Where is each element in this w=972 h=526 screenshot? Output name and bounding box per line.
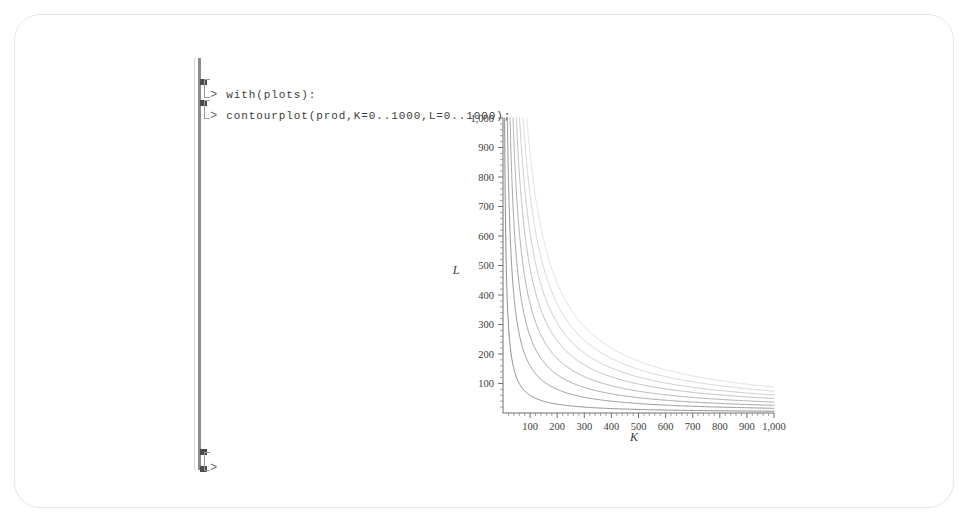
y-tick-label: 600 xyxy=(478,231,494,242)
y-tick-label: 800 xyxy=(478,172,494,183)
execution-group-bar[interactable] xyxy=(198,58,201,470)
contour-curve xyxy=(523,118,774,391)
y-axis-tick-labels: 1002003004005006007008009001,000 xyxy=(470,113,494,390)
y-tick-label: 900 xyxy=(478,142,494,153)
contour-curve xyxy=(507,118,774,408)
y-tick-label: 700 xyxy=(478,201,494,212)
y-axis-label: L xyxy=(452,263,460,277)
y-tick-label: 100 xyxy=(478,378,494,389)
contour-curve xyxy=(527,118,774,387)
prompt-bracket-icon xyxy=(204,452,210,471)
contour-curves xyxy=(505,118,774,411)
y-tick-label: 300 xyxy=(478,319,494,330)
x-axis-tick-labels: 1002003004005006007008009001,000 xyxy=(522,421,786,432)
x-tick-label: 100 xyxy=(522,421,538,432)
x-tick-label: 700 xyxy=(685,421,701,432)
x-tick-label: 300 xyxy=(576,421,592,432)
x-axis-ticks xyxy=(508,413,774,418)
x-tick-label: 1,000 xyxy=(762,421,786,432)
x-axis-label: K xyxy=(629,430,639,444)
prompt-caret-icon: > xyxy=(210,461,217,475)
prompt-bracket-icon xyxy=(204,100,210,119)
x-tick-label: 200 xyxy=(549,421,565,432)
prompt-caret-icon: > xyxy=(210,109,217,123)
y-tick-label: 200 xyxy=(478,349,494,360)
y-tick-label: 1,000 xyxy=(470,113,494,124)
contourplot-output[interactable]: 1002003004005006007008009001,000 1002003… xyxy=(430,110,800,455)
contour-curve xyxy=(513,118,774,402)
x-tick-label: 400 xyxy=(604,421,620,432)
y-tick-label: 400 xyxy=(478,290,494,301)
x-tick-label: 900 xyxy=(739,421,755,432)
y-tick-label: 500 xyxy=(478,260,494,271)
contour-curve xyxy=(520,118,774,395)
contour-plot-svg: 1002003004005006007008009001,000 1002003… xyxy=(430,110,800,455)
input-line-empty-prompt[interactable]: > xyxy=(204,452,226,475)
prompt-bracket-icon xyxy=(204,79,210,98)
x-tick-label: 600 xyxy=(658,421,674,432)
input-line-with-plots[interactable]: > with(plots): xyxy=(204,79,316,102)
x-tick-label: 800 xyxy=(712,421,728,432)
execution-group-bar-shadow xyxy=(194,58,195,470)
y-axis-ticks xyxy=(498,118,503,407)
contour-curve xyxy=(505,118,774,411)
